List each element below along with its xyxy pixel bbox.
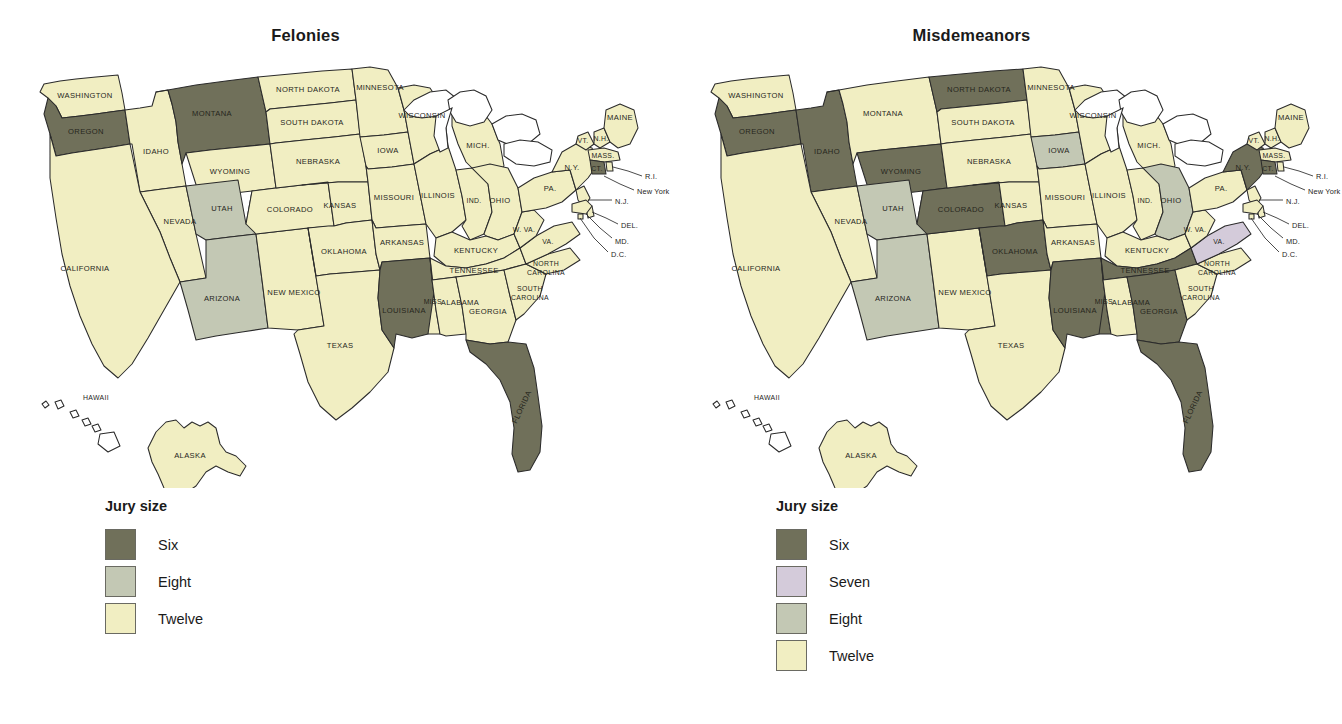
state-label-missouri: MISSOURI — [1045, 193, 1085, 202]
state-label-carolina: CAROLINA — [527, 269, 565, 276]
great-lake-3 — [1175, 140, 1223, 166]
state-label-alabama: ALABAMA — [441, 298, 480, 307]
legend-label-six: Six — [829, 537, 849, 553]
leader-line-0 — [613, 167, 642, 176]
state-label-idaho: IDAHO — [814, 147, 840, 156]
state-label-south-dakota: SOUTH DAKOTA — [280, 118, 344, 127]
state-label-wisconsin: WISCONSIN — [1069, 111, 1116, 120]
legend-label-six: Six — [158, 537, 178, 553]
legend-swatch-eight — [776, 603, 807, 634]
state-label-oklahoma: OKLAHOMA — [992, 247, 1038, 256]
leader-line-3 — [1263, 212, 1289, 224]
panel-title-misdemeanors: Misdemeanors — [636, 26, 1307, 45]
legend-label-twelve: Twelve — [829, 648, 874, 664]
state-label-ct-: CT. — [591, 165, 602, 172]
state-label-wisconsin: WISCONSIN — [398, 111, 445, 120]
state-label-new-mexico: NEW MEXICO — [938, 288, 991, 297]
legend-item-six: Six — [776, 526, 1106, 563]
state-label-va-: VA. — [1213, 238, 1225, 245]
state-label-md-: MD. — [615, 237, 629, 246]
state-label-georgia: GEORGIA — [1140, 307, 1178, 316]
state-label-r-i-: R.I. — [1316, 172, 1328, 181]
state-label-colorado: COLORADO — [267, 205, 313, 214]
legend-item-seven: Seven — [776, 563, 1106, 600]
great-lake-3 — [504, 140, 552, 166]
state-label-wyoming: WYOMING — [210, 167, 250, 176]
state-label-del-: DEL. — [1292, 221, 1309, 230]
state-label-r-i-: R.I. — [645, 172, 657, 181]
state-label-arkansas: ARKANSAS — [380, 238, 424, 247]
state-label-ohio: OHIO — [1161, 196, 1182, 205]
state-label-louisiana: LOUISIANA — [382, 306, 426, 315]
leader-line-4 — [1257, 214, 1283, 238]
state-label-california: CALIFORNIA — [60, 264, 110, 273]
state-label-ct-: CT. — [1262, 165, 1273, 172]
state-label-n-h-: N.H. — [593, 135, 608, 142]
state-label-vt-: VT. — [577, 137, 588, 144]
state-label-md-: MD. — [1286, 237, 1300, 246]
state-label-washington: WASHINGTON — [57, 91, 112, 100]
state-label-washington: WASHINGTON — [728, 91, 783, 100]
state-label-minnesota: MINNESOTA — [1027, 83, 1075, 92]
legend-label-eight: Eight — [829, 611, 862, 627]
state-label-arizona: ARIZONA — [875, 294, 912, 303]
state-label-mich-: MICH. — [466, 141, 489, 150]
panel-felonies: Felonies WASHINGTONOREGONIDAHOMONTANAWYO… — [0, 0, 671, 724]
state-label-del-: DEL. — [621, 221, 638, 230]
state-label-minnesota: MINNESOTA — [356, 83, 404, 92]
state-label-south-dakota: SOUTH DAKOTA — [951, 118, 1015, 127]
state-minnesota — [1023, 67, 1079, 137]
legend-title: Jury size — [776, 498, 1106, 514]
state-label-oregon: OREGON — [739, 127, 775, 136]
state-label-mich-: MICH. — [1137, 141, 1160, 150]
legend-item-twelve: Twelve — [105, 600, 435, 637]
state-label-carolina: CAROLINA — [1198, 269, 1236, 276]
state-label-texas: TEXAS — [998, 341, 1025, 350]
leader-line-0 — [1284, 167, 1313, 176]
great-lake-1 — [1119, 90, 1163, 126]
state-label-mass-: MASS. — [1262, 152, 1285, 159]
legend-swatch-seven — [776, 566, 807, 597]
panel-misdemeanors: Misdemeanors WASHINGTONOREGONIDAHOMONTAN… — [671, 0, 1342, 724]
state-label-w-va-: W. VA. — [1184, 226, 1207, 233]
legend-label-twelve: Twelve — [158, 611, 203, 627]
state-hawaii — [42, 400, 120, 452]
state-label-utah: UTAH — [882, 204, 904, 213]
state-label-ind-: IND. — [1137, 197, 1152, 204]
state-label-pa-: PA. — [1215, 184, 1228, 193]
state-label-illinois: ILLINOIS — [421, 191, 455, 200]
map-svg-felonies: WASHINGTONOREGONIDAHOMONTANAWYOMINGNEVAD… — [0, 48, 671, 488]
state-label-missouri: MISSOURI — [374, 193, 414, 202]
legend-item-eight: Eight — [105, 563, 435, 600]
legend-label-seven: Seven — [829, 574, 870, 590]
state-label-alabama: ALABAMA — [1112, 298, 1151, 307]
legend-misdemeanors: Jury size Six Seven Eight Twelve — [776, 498, 1106, 674]
state-label-montana: MONTANA — [192, 109, 232, 118]
state-label-oregon: OREGON — [68, 127, 104, 136]
state-label-north-dakota: NORTH DAKOTA — [947, 85, 1011, 94]
state-label-colorado: COLORADO — [938, 205, 984, 214]
state-label-alaska: ALASKA — [845, 451, 877, 460]
state-label-oklahoma: OKLAHOMA — [321, 247, 367, 256]
state-label-kentucky: KENTUCKY — [454, 246, 498, 255]
state-label-n-y-: N.Y. — [1235, 163, 1250, 172]
legend-item-eight: Eight — [776, 600, 1106, 637]
state-label-north: NORTH — [1204, 260, 1230, 267]
leader-line-1 — [604, 176, 634, 190]
state-label-nebraska: NEBRASKA — [296, 157, 341, 166]
state-label-w-va-: W. VA. — [513, 226, 536, 233]
state-label-nevada: NEVADA — [835, 217, 868, 226]
state-label-alaska: ALASKA — [174, 451, 206, 460]
state-label-montana: MONTANA — [863, 109, 903, 118]
map-misdemeanors: WASHINGTONOREGONIDAHOMONTANAWYOMINGNEVAD… — [671, 48, 1342, 488]
legend-label-eight: Eight — [158, 574, 191, 590]
state-label-utah: UTAH — [211, 204, 233, 213]
state-label-arkansas: ARKANSAS — [1051, 238, 1095, 247]
state-label-va-: VA. — [542, 238, 554, 245]
state-label-hawaii: HAWAII — [83, 394, 109, 401]
legend-swatch-eight — [105, 566, 136, 597]
state-label-new-mexico: NEW MEXICO — [267, 288, 320, 297]
state-label-kansas: KANSAS — [995, 201, 1028, 210]
state-label-iowa: IOWA — [1048, 146, 1070, 155]
state-label-n-j-: N.J. — [1286, 197, 1300, 206]
